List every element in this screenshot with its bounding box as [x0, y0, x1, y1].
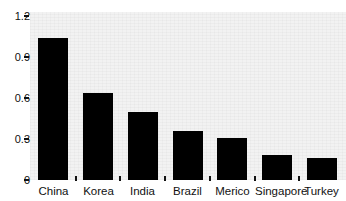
y-axis-tick-mark: [24, 15, 29, 17]
x-axis-tick-mark: [209, 176, 211, 181]
x-axis-tick-label: Korea: [76, 184, 121, 198]
bar: [83, 93, 113, 180]
x-axis-tick-mark: [119, 176, 121, 181]
y-axis-tick-mark: [24, 97, 29, 99]
x-axis-tick-label: Brazil: [165, 184, 210, 198]
bar-chart: 1.20.90.60.30 ChinaKoreaIndiaBrazilMeric…: [0, 0, 346, 201]
x-axis-tick-label: Singapore: [255, 184, 300, 198]
x-axis-tick-label: India: [120, 184, 165, 198]
bar: [307, 158, 337, 180]
y-axis-tick-mark: [24, 138, 29, 140]
x-axis-tick-label: Turkey: [299, 184, 344, 198]
x-axis-tick-mark: [164, 176, 166, 181]
chart-title-cropped: [0, 0, 346, 4]
x-axis-tick-label: Merico: [210, 184, 255, 198]
x-axis-tick-mark: [75, 176, 77, 181]
x-axis-tick-mark: [254, 176, 256, 181]
bar: [262, 155, 292, 180]
bar: [38, 38, 68, 180]
bar: [128, 112, 158, 180]
y-axis-tick-mark: [24, 179, 29, 181]
bar: [173, 131, 203, 180]
x-axis-tick-mark: [298, 176, 300, 181]
bar: [217, 138, 247, 180]
x-axis-tick-label: China: [31, 184, 76, 198]
y-axis-tick-mark: [24, 56, 29, 58]
